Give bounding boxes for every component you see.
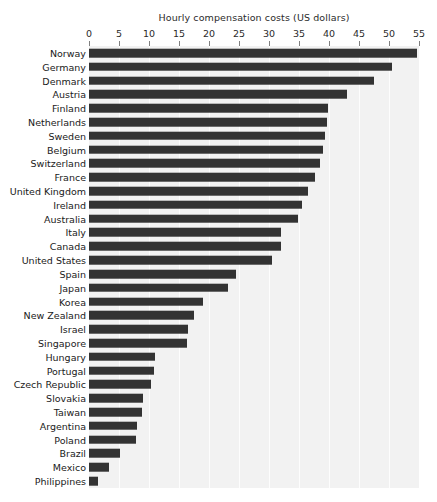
bar [89, 256, 272, 265]
bar-row: Denmark [0, 74, 437, 88]
bar-row: Argentina [0, 419, 437, 433]
bar [89, 62, 392, 71]
category-label: Italy [65, 227, 86, 238]
bar [89, 173, 315, 182]
bar [89, 339, 187, 348]
bar [89, 366, 154, 375]
category-label: Singapore [38, 337, 86, 348]
bar-row: France [0, 170, 437, 184]
x-axis-tick-label: 0 [86, 28, 92, 39]
bar-row: Finland [0, 101, 437, 115]
x-axis-tick-label: 20 [203, 28, 215, 39]
category-label: Poland [54, 434, 86, 445]
category-label: Argentina [40, 420, 86, 431]
category-label: United States [22, 255, 86, 266]
category-label: Mexico [53, 462, 86, 473]
bar [89, 394, 143, 403]
bar [89, 90, 347, 99]
bar-row: Switzerland [0, 157, 437, 171]
category-label: New Zealand [24, 310, 86, 321]
bar-row: Korea [0, 295, 437, 309]
bar [89, 352, 155, 361]
bar-row: Austria [0, 87, 437, 101]
x-axis-tick-label: 40 [323, 28, 335, 39]
bar-row: Norway [0, 46, 437, 60]
bar-row: Germany [0, 60, 437, 74]
category-label: Portugal [47, 365, 86, 376]
category-label: United Kingdom [10, 186, 86, 197]
x-axis-tick-labels: 0510152025303540455055 [0, 28, 437, 41]
bar-row: Ireland [0, 198, 437, 212]
category-label: Taiwan [54, 407, 86, 418]
bar-chart: Hourly compensation costs (US dollars) 0… [0, 0, 437, 502]
bar-row: Belgium [0, 143, 437, 157]
x-axis-tick-label: 55 [413, 28, 425, 39]
bar-row: Australia [0, 212, 437, 226]
category-label: Brazil [59, 448, 86, 459]
x-axis-tick-label: 50 [383, 28, 395, 39]
category-label: Austria [52, 89, 86, 100]
bar [89, 435, 136, 444]
category-label: Finland [52, 103, 86, 114]
bar-row: United States [0, 253, 437, 267]
bar [89, 104, 328, 113]
bar-row: Philippines [0, 474, 437, 488]
bar [89, 145, 323, 154]
category-label: Canada [50, 241, 86, 252]
bar [89, 408, 142, 417]
bar [89, 422, 137, 431]
bar-row: Slovakia [0, 391, 437, 405]
bar [89, 449, 120, 458]
bar [89, 311, 194, 320]
bar [89, 380, 151, 389]
bar-row: Sweden [0, 129, 437, 143]
bar-row: Italy [0, 226, 437, 240]
category-label: Germany [42, 61, 86, 72]
bar [89, 131, 325, 140]
category-label: Ireland [53, 199, 86, 210]
bar [89, 270, 236, 279]
category-label: Belgium [47, 144, 86, 155]
bar-rows: NorwayGermanyDenmarkAustriaFinlandNether… [0, 46, 437, 488]
category-label: France [54, 172, 86, 183]
bar-row: Netherlands [0, 115, 437, 129]
bar [89, 118, 327, 127]
category-label: Australia [44, 213, 86, 224]
bar [89, 159, 320, 168]
bar [89, 463, 109, 472]
bar-row: Poland [0, 433, 437, 447]
bar-row: Taiwan [0, 405, 437, 419]
category-label: Denmark [42, 75, 86, 86]
category-label: Norway [50, 47, 86, 58]
bar [89, 477, 98, 486]
bar-row: Brazil [0, 447, 437, 461]
bar [89, 242, 281, 251]
bar [89, 228, 281, 237]
category-label: Japan [60, 282, 87, 293]
bar-row: Israel [0, 322, 437, 336]
x-axis-tick-label: 45 [353, 28, 365, 39]
bar-row: Czech Republic [0, 378, 437, 392]
bar-row: New Zealand [0, 308, 437, 322]
category-label: Spain [59, 268, 86, 279]
bar [89, 325, 188, 334]
x-axis-tick-label: 30 [263, 28, 275, 39]
category-label: Czech Republic [14, 379, 86, 390]
category-label: Switzerland [31, 158, 86, 169]
bar-row: Canada [0, 239, 437, 253]
category-label: Korea [59, 296, 86, 307]
bar-row: Spain [0, 267, 437, 281]
bar-row: Mexico [0, 460, 437, 474]
bar [89, 187, 308, 196]
bar [89, 49, 417, 58]
bar-row: Japan [0, 281, 437, 295]
bar [89, 297, 203, 306]
bar-row: United Kingdom [0, 184, 437, 198]
bar [89, 76, 374, 85]
x-axis-tick-label: 35 [293, 28, 305, 39]
x-axis-tick-label: 10 [143, 28, 155, 39]
x-axis-tick-label: 15 [173, 28, 185, 39]
bar [89, 201, 302, 210]
category-label: Sweden [48, 130, 86, 141]
chart-title: Hourly compensation costs (US dollars) [89, 12, 419, 23]
